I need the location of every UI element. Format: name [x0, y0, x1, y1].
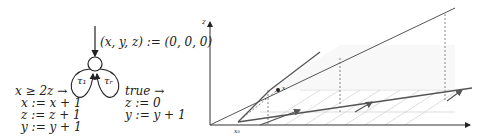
- left-update-y: y := y + 1: [21, 121, 82, 134]
- init-assignment: (x, y, z) := (0, 0, 0): [100, 36, 212, 49]
- trajectory-plot: [210, 8, 472, 125]
- state-node: [88, 57, 102, 71]
- loop-label-left: τ₁: [77, 75, 87, 86]
- point-label: x: [282, 84, 285, 91]
- z-axis-label: z: [202, 18, 206, 26]
- origin-label: x₀: [234, 127, 240, 134]
- right-update-y: y := y + 1: [125, 109, 186, 122]
- loop-label-right: τᵣ: [104, 75, 113, 86]
